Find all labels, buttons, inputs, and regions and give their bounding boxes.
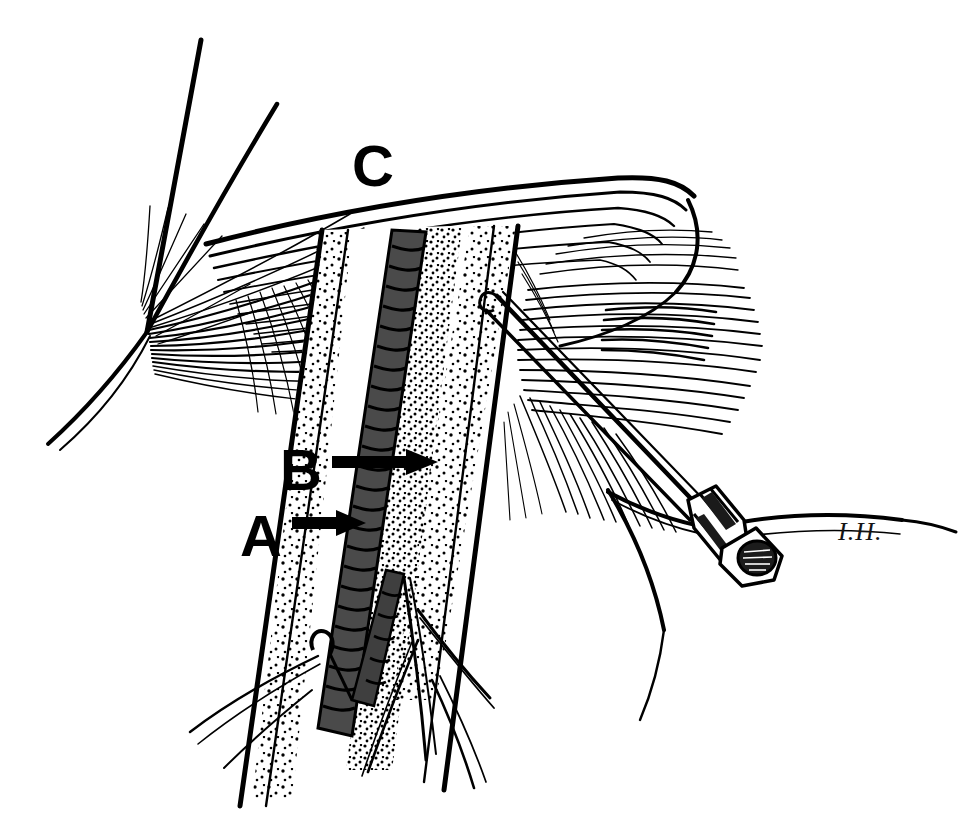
illustration-canvas: A B C I.H. (0, 0, 974, 830)
label-b-text: B (280, 437, 322, 502)
surgical-illustration-figure: A B C I.H. (0, 0, 974, 830)
label-c-text: C (352, 133, 394, 198)
label-a-text: A (240, 503, 282, 568)
artist-signature: I.H. (837, 517, 882, 546)
